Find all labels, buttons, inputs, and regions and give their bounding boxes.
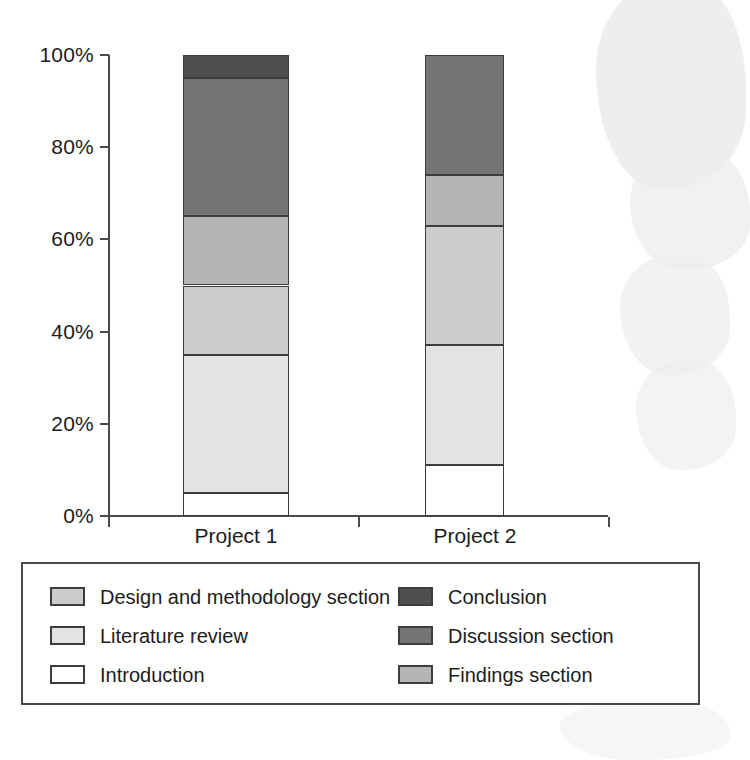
x-axis-separator-tick <box>608 517 610 527</box>
legend-item[interactable]: Literature review <box>23 625 395 647</box>
y-axis-tick-label-text: 100% <box>10 44 94 65</box>
y-axis-tick <box>100 54 109 56</box>
x-axis-separator-tick <box>108 517 110 527</box>
legend-swatch-icon <box>398 587 433 606</box>
y-axis-tick-label: 100% <box>0 44 94 65</box>
legend-item-label: Findings section <box>448 664 593 686</box>
y-axis-tick-label: 80% <box>0 136 94 157</box>
legend-item[interactable]: Discussion section <box>395 625 698 647</box>
legend-item-label: Conclusion <box>448 586 547 608</box>
y-axis-tick <box>100 146 109 148</box>
legend-swatch-icon <box>50 626 85 645</box>
legend-item[interactable]: Introduction <box>23 664 395 686</box>
legend-item-label: Introduction <box>100 664 205 686</box>
y-axis-line <box>108 55 110 516</box>
y-axis-tick-label: 20% <box>0 413 94 434</box>
legend-grid: Design and methodology sectionConclusion… <box>23 564 698 703</box>
bar-segment-discussion-section[interactable] <box>183 78 289 216</box>
bar-segment-conclusion[interactable] <box>183 55 289 78</box>
legend: Design and methodology sectionConclusion… <box>21 562 700 705</box>
bar-segment-introduction[interactable] <box>425 465 504 516</box>
bar-project-2[interactable] <box>425 55 504 516</box>
legend-swatch-icon <box>398 626 433 645</box>
legend-item[interactable]: Design and methodology section <box>23 586 395 608</box>
bar-segment-design-and-methodology-section[interactable] <box>425 226 504 346</box>
bar-segment-findings-section[interactable] <box>425 175 504 226</box>
category-label: Project 1 <box>133 524 339 548</box>
plot-area: 0%20%40%60%80%100% Project 1Project 2 <box>0 0 724 555</box>
y-axis-tick <box>100 331 109 333</box>
category-label: Project 2 <box>372 524 578 548</box>
bar-segment-literature-review[interactable] <box>183 355 289 493</box>
y-axis-tick-label-text: 40% <box>10 321 94 342</box>
y-axis-tick-label: 40% <box>0 321 94 342</box>
legend-item-label: Literature review <box>100 625 248 647</box>
y-axis-tick-label: 60% <box>0 228 94 249</box>
legend-item[interactable]: Conclusion <box>395 586 698 608</box>
legend-swatch-icon <box>50 587 85 606</box>
y-axis-tick-label-text: 20% <box>10 413 94 434</box>
legend-item-label: Design and methodology section <box>100 586 390 608</box>
legend-item[interactable]: Findings section <box>395 664 698 686</box>
y-axis-tick-label: 0% <box>0 505 94 526</box>
x-axis-separator-tick <box>358 517 360 527</box>
bar-segment-discussion-section[interactable] <box>425 55 504 175</box>
bar-segment-literature-review[interactable] <box>425 345 504 465</box>
y-axis-tick-label-text: 80% <box>10 136 94 157</box>
y-axis-tick-label-text: 0% <box>10 505 94 526</box>
bar-project-1[interactable] <box>183 55 289 516</box>
y-axis-tick <box>100 238 109 240</box>
y-axis-tick <box>100 423 109 425</box>
bar-segment-design-and-methodology-section[interactable] <box>183 286 289 355</box>
bar-segment-findings-section[interactable] <box>183 216 289 285</box>
legend-swatch-icon <box>50 665 85 684</box>
bar-segment-introduction[interactable] <box>183 493 289 516</box>
y-axis-tick-label-text: 60% <box>10 228 94 249</box>
legend-swatch-icon <box>398 665 433 684</box>
legend-item-label: Discussion section <box>448 625 614 647</box>
